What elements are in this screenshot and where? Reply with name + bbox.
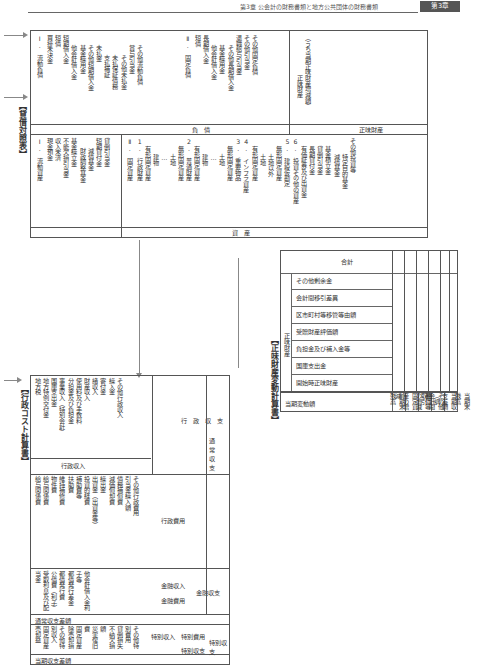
list-item: 給与関係費 [41,476,49,566]
list-item: その他固定負債 [250,35,258,123]
list-item: 寄付金 [99,378,107,456]
list-item: 他会計借入金 [209,45,217,123]
list-item: 公債費（利子） [49,571,57,611]
list-item: 収入未済 [53,138,61,226]
column-header-list: その他剰余金 会計間移引差異 区市町村等移管等由額 受贈財産評価額 負担金及び補… [292,273,392,391]
list-item: 基金積立金 [324,146,332,226]
financial-balance-label: 金融収支 [196,588,220,597]
group-label-cell: 正味財産 [281,273,292,391]
divider [289,31,290,134]
column-header: その他剰余金 [292,273,392,290]
column-header: 会計間移引差異 [292,290,392,307]
divider [31,134,427,135]
list-item: 減債基金 [86,148,94,226]
arrow-line [4,35,24,36]
list-item: 有形固定資産 [143,146,151,226]
list-item: 投資的経費 [82,476,90,566]
fixed-assets-list: 1. 行政財産 有形固定資産 建物 … 土地 無形固定資産 2. 普通財産 有形… [135,138,356,226]
list-item: 短債 [193,35,201,123]
admin-balance-label: 行政収支 [181,416,229,425]
list-item: 基金繰用金 [78,45,86,123]
section-label-liabilities: 負 債 [161,125,241,134]
current-liabilities-heading: Ⅰ. 流動負債 [35,35,43,123]
list-item: 正味財産 [295,75,303,123]
column-header: 区市町村等移管等由額 [292,307,392,324]
divider [31,474,229,475]
section-label-net-assets: 正味財産 [331,125,411,134]
list-item: 他会計借入金 [70,45,78,123]
grid-line [392,251,393,391]
current-balance-label: 当期収支差額 [35,656,71,665]
list-item: 固定資産売却益 [33,626,49,654]
list-item: 特定目的基金 [340,154,348,226]
list-item: 無形固定資産 [274,146,282,226]
fixed-liabilities-list: 短債 長期借入金 他会計借入金 基金繰用金 その他長期借入金 退職給与引当金 そ… [193,35,259,123]
row-label: 当期末残高 [457,393,470,411]
list-item: 買掛未決金 [45,35,53,123]
admin-expense-label: 行政費用 [161,516,185,525]
column-header: 受贈財産評価額 [292,324,392,341]
list-item: 補助費等 [74,476,82,566]
list-item: 短債 [53,35,61,123]
list-item: 3. 重要物品 [233,138,241,226]
special-expense-label: 特別費用 [181,632,205,641]
list-item: 6. 投資その他の資産 [291,138,299,226]
section-label-assets: 資 産 [201,228,281,237]
column-header: 合計 [341,257,353,266]
total-header-row: 合計 [281,251,457,274]
list-item: 5. 建設仮勘定 [283,138,291,226]
fixed-liabilities-heading: Ⅱ. 固定負債 [183,35,191,123]
current-liabilities-list: 買掛未決金 短債 短期借入金 他会計借入金 基金繰用金 その他短期借入金 未払金… [45,35,143,123]
net-assets-statement: 合計 正味財産 その他剰余金 会計間移引差異 区市町村等移管等由額 受贈財産評価… [280,250,458,392]
list-item: 未払金 [94,45,102,123]
financial-revenue-label: 金融収入 [161,581,185,590]
financial-expense-label: 金融費用 [161,596,185,605]
arrow-line [238,258,239,368]
net-assets-list: 正味財産 （うち当期正味財産増減額） [295,35,311,123]
net-assets-statement-title: 【正味財産変動計算書】 [268,336,279,424]
chapter-badge: 第3章 [420,1,460,12]
admin-revenue-list: 地方税 地方特例交付金 国庫支出金 事業収入（特別会計） 分担金及び負担金 使用… [33,378,123,456]
list-item: その他短期借入金 [86,45,94,123]
list-item: 建物 [151,154,159,226]
list-item: 長期貸付金 [307,146,315,226]
column-header: 国庫支出金 [292,358,392,375]
grid-line [416,251,417,391]
arrow-right-icon [17,377,22,383]
divider [152,376,153,474]
list-item: 諸収入 [90,378,98,456]
list-item: 1. 行政財産 [135,138,143,226]
admin-revenue-label: 行政収入 [61,461,85,470]
list-item: 不納欠損額 [99,626,115,654]
divider [31,568,229,569]
list-item: 事業収入（特別会計） [58,378,66,456]
list-item: 土地以外 [266,154,274,226]
grid-line [449,251,450,391]
grid-line [428,251,429,391]
net-assets-row-labels: 当期変動額 前期末残高 固定資産の増減 都債等の増減 その他会計間取引 当期収支… [280,392,458,412]
list-item: その他流動負債 [135,45,143,123]
list-item: 有価証券及び出資金 [299,146,307,226]
grid-line [440,251,441,391]
list-item: 賞与引当金 [127,45,135,123]
list-item: 支払補証 [102,55,110,123]
list-item: 物件費 [49,476,57,566]
list-item: 無形固定資産 [176,146,184,226]
list-item: 貸倒損失 [115,626,123,654]
list-item: 貸倒引当金 [315,146,323,226]
list-item: 短期借入金 [61,35,69,123]
list-item: 有形固定資産 [192,146,200,226]
current-assets-heading: Ⅰ. 流動資産 [35,138,43,226]
row-header: 当期変動額 [285,399,315,408]
list-item: 債務補償費 [115,476,123,566]
list-item: 地方特例交付金 [41,378,49,456]
list-item: 災害復旧費 [82,626,98,654]
list-item: 長期借入金 [201,35,209,123]
arrow-line [4,380,18,381]
list-item: 建物 [201,154,209,226]
cost-statement-title: 【行政コスト計算書】 [18,385,29,465]
grid-line [404,251,405,391]
arrow-line [139,240,140,375]
list-item: 都債発行費 [58,571,66,611]
list-item: その他引当金 [242,35,250,123]
